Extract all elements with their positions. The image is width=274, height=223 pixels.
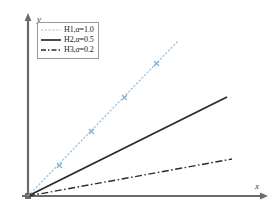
y-axis-arrowhead: [25, 13, 32, 21]
x-axis-arrowhead: [260, 193, 268, 200]
chart-figure: y x H1,α=1.0 H2,α=0.5: [0, 0, 274, 223]
legend-label-h2: H2,α=0.5: [64, 35, 94, 45]
legend-entry-h3[interactable]: H3,α=0.2: [41, 45, 94, 55]
legend-swatch-dashdot-line-icon: [41, 46, 61, 54]
legend-swatch-dotted-line-icon: [41, 26, 61, 34]
marker-point: [154, 61, 159, 66]
series-markers-h1: [57, 61, 159, 168]
x-axis-label: x: [254, 181, 259, 191]
series-group: [28, 41, 232, 196]
marker-point: [122, 95, 127, 100]
legend-entry-h2[interactable]: H2,α=0.5: [41, 35, 94, 45]
series-line-h2: [28, 97, 227, 196]
legend-entry-h1[interactable]: H1,α=1.0: [41, 25, 94, 35]
legend-swatch-solid-line-icon: [41, 36, 61, 44]
chart-legend: H1,α=1.0 H2,α=0.5 H3,α=0.2: [37, 22, 99, 59]
legend-label-h1: H1,α=1.0: [64, 25, 94, 35]
legend-label-h3: H3,α=0.2: [64, 45, 94, 55]
